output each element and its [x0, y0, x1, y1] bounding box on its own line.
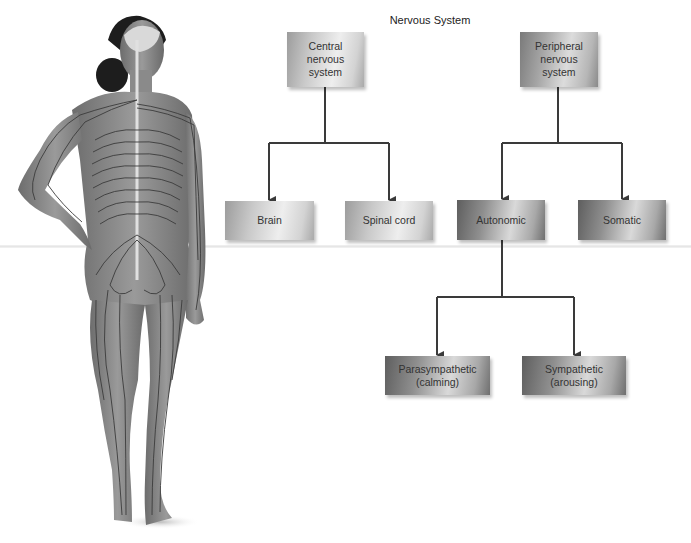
node-label: Sympathetic (arousing)	[545, 363, 603, 389]
node-somatic: Somatic	[578, 200, 666, 240]
node-label: Peripheral nervous system	[535, 40, 583, 79]
node-sympathetic: Sympathetic (arousing)	[522, 356, 626, 395]
node-parasympathetic: Parasympathetic (calming)	[385, 356, 490, 395]
node-label: Central nervous system	[307, 40, 344, 79]
node-peripheral-nervous-system: Peripheral nervous system	[520, 32, 598, 87]
node-label: Autonomic	[476, 214, 526, 227]
node-spinal-cord: Spinal cord	[345, 201, 433, 240]
node-brain: Brain	[225, 201, 314, 240]
node-autonomic: Autonomic	[457, 200, 545, 240]
node-label: Somatic	[603, 214, 641, 227]
diagram-title: Nervous System	[370, 14, 490, 26]
node-label: Spinal cord	[363, 214, 416, 227]
node-label: Brain	[257, 214, 282, 227]
node-central-nervous-system: Central nervous system	[287, 32, 364, 87]
node-label: Parasympathetic (calming)	[398, 363, 476, 389]
